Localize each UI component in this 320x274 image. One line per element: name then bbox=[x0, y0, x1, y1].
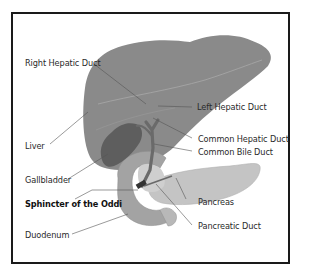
label-gallbladder: Gallbladder bbox=[25, 175, 71, 185]
leader-sphincter bbox=[75, 190, 92, 199]
label-left-hepatic-duct: Left Hepatic Duct bbox=[197, 102, 267, 112]
label-liver: Liver bbox=[25, 141, 45, 151]
leader-liver bbox=[50, 112, 88, 144]
label-duodenum: Duodenum bbox=[25, 230, 69, 240]
label-pancreas: Pancreas bbox=[198, 197, 234, 207]
label-sphincter-of-oddi: Sphincter of the Oddi bbox=[25, 199, 122, 209]
label-common-hepatic-duct: Common Hepatic Duct bbox=[198, 134, 289, 144]
leader-duodenum bbox=[72, 214, 128, 234]
label-right-hepatic-duct: Right Hepatic Duct bbox=[25, 58, 101, 68]
label-common-bile-duct: Common Bile Duct bbox=[198, 147, 273, 157]
label-pancreatic-duct: Pancreatic Duct bbox=[198, 221, 261, 231]
